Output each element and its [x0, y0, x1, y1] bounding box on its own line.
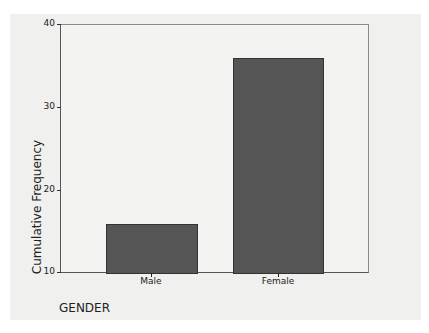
plot-area	[60, 24, 369, 273]
x-axis-label: GENDER	[59, 301, 110, 315]
ytick-mark-20	[57, 190, 61, 191]
bar-male	[106, 224, 198, 274]
ytick-mark-30	[57, 107, 61, 108]
ytick-label-30: 30	[35, 101, 55, 111]
ytick-label-40: 40	[35, 18, 55, 28]
xtick-label-male: Male	[121, 276, 181, 286]
bar-female	[233, 58, 324, 274]
ytick-mark-10	[57, 272, 61, 273]
xtick-label-female: Female	[248, 276, 308, 286]
ytick-mark-40	[57, 24, 61, 25]
y-axis-label: Cumulative Frequency	[30, 132, 44, 282]
